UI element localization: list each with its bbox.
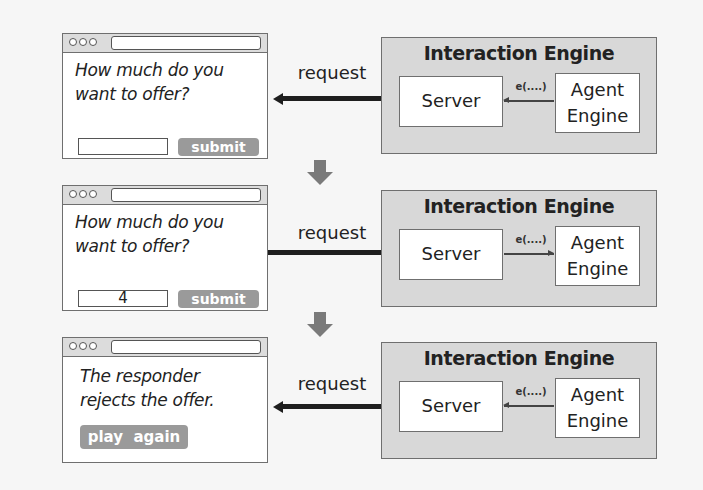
- question-line-2: want to offer?: [75, 234, 261, 258]
- request-arrow-line: [282, 96, 382, 101]
- address-bar: [111, 340, 261, 354]
- circle-icon: [79, 190, 87, 198]
- call-arrow-line: [504, 253, 554, 255]
- call-label: e(....): [509, 234, 553, 245]
- server-box: Server: [399, 229, 503, 280]
- question-line-1: How much do you: [75, 210, 261, 234]
- interaction-engine-step-3: Interaction Engine Server e(....) Agent …: [381, 342, 657, 459]
- result-message: The responder rejects the offer.: [80, 364, 261, 412]
- offer-question: How much do you want to offer?: [75, 210, 261, 258]
- interaction-engine-title: Interaction Engine: [382, 42, 656, 64]
- browser-window-step-2: How much do you want to offer? 4 submit: [62, 185, 268, 311]
- browser-window-step-1: How much do you want to offer? submit: [62, 33, 268, 159]
- arrow-left-icon: [273, 93, 283, 105]
- offer-input[interactable]: [78, 138, 168, 155]
- arrow-right-icon: [548, 250, 554, 256]
- arrow-left-icon: [273, 401, 283, 413]
- browser-toolbar: [63, 338, 267, 357]
- message-line-1: The responder: [80, 364, 261, 388]
- circle-icon: [79, 342, 87, 350]
- server-box: Server: [399, 381, 503, 432]
- submit-button[interactable]: submit: [178, 290, 259, 308]
- browser-toolbar: [63, 186, 267, 205]
- call-label: e(....): [509, 81, 553, 92]
- arrow-down-icon: [307, 312, 333, 338]
- message-line-2: rejects the offer.: [80, 388, 261, 412]
- address-bar: [111, 36, 261, 50]
- interaction-engine-step-1: Interaction Engine Server e(....) Agent …: [381, 37, 657, 154]
- window-controls-icon: [69, 190, 97, 198]
- circle-icon: [69, 38, 77, 46]
- agent-label-line-2: Engine: [556, 256, 639, 282]
- request-label: request: [287, 62, 377, 83]
- submit-button[interactable]: submit: [178, 138, 259, 156]
- server-box: Server: [399, 76, 503, 127]
- arrow-down-icon: [307, 160, 333, 186]
- interaction-engine-title: Interaction Engine: [382, 347, 656, 369]
- circle-icon: [69, 190, 77, 198]
- interaction-engine-step-2: Interaction Engine Server e(....) Agent …: [381, 190, 657, 307]
- agent-label-line-1: Agent: [556, 382, 639, 408]
- agent-engine-box: Agent Engine: [555, 378, 640, 438]
- address-bar: [111, 188, 261, 202]
- circle-icon: [89, 190, 97, 198]
- arrow-left-icon: [503, 402, 509, 408]
- call-arrow-line: [504, 405, 554, 407]
- browser-toolbar: [63, 34, 267, 53]
- interaction-engine-title: Interaction Engine: [382, 195, 656, 217]
- agent-label-line-2: Engine: [556, 103, 639, 129]
- call-arrow-line: [504, 100, 554, 102]
- browser-window-step-3: The responder rejects the offer. play ag…: [62, 337, 268, 463]
- circle-icon: [79, 38, 87, 46]
- agent-label-line-2: Engine: [556, 408, 639, 434]
- arrow-left-icon: [503, 97, 509, 103]
- window-controls-icon: [69, 342, 97, 350]
- request-label: request: [287, 222, 377, 243]
- circle-icon: [89, 342, 97, 350]
- call-label: e(....): [509, 386, 553, 397]
- request-arrow-line: [282, 404, 382, 409]
- request-label: request: [287, 373, 377, 394]
- request-arrow-line: [268, 250, 388, 255]
- circle-icon: [89, 38, 97, 46]
- agent-label-line-1: Agent: [556, 77, 639, 103]
- agent-engine-box: Agent Engine: [555, 226, 640, 286]
- question-line-1: How much do you: [75, 58, 261, 82]
- window-controls-icon: [69, 38, 97, 46]
- play-again-button[interactable]: play again: [80, 425, 188, 449]
- circle-icon: [69, 342, 77, 350]
- offer-question: How much do you want to offer?: [75, 58, 261, 106]
- agent-engine-box: Agent Engine: [555, 73, 640, 133]
- agent-label-line-1: Agent: [556, 230, 639, 256]
- question-line-2: want to offer?: [75, 82, 261, 106]
- offer-input[interactable]: 4: [78, 290, 168, 307]
